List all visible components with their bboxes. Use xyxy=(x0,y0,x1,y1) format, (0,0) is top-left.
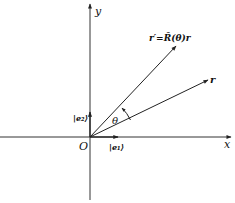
r-label: r xyxy=(210,74,216,85)
angle-arc xyxy=(122,108,131,120)
x-axis-label: x xyxy=(224,138,231,151)
origin-label: O xyxy=(79,140,88,153)
e1-basis-label: |e₁⟩ xyxy=(109,142,124,152)
theta-label: θ xyxy=(112,115,118,126)
vector-r xyxy=(90,80,208,137)
vector-r-prime xyxy=(90,46,176,137)
r-prime-label: r′=R̂(θ)r xyxy=(149,32,192,43)
y-axis-label: y xyxy=(94,5,102,18)
rotation-diagram: y x O θ r r′=R̂(θ)r |e₂⟩ |e₁⟩ xyxy=(0,0,235,203)
e2-basis-label: |e₂⟩ xyxy=(73,113,88,123)
